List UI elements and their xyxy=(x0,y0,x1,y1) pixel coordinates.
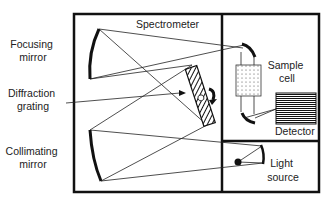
sample-mirror-top xyxy=(242,44,255,57)
source-mirror xyxy=(261,145,264,164)
sample-cell-label: Sample cell xyxy=(268,59,307,84)
light-source-lamp xyxy=(235,159,242,166)
light-rays xyxy=(90,29,276,181)
sample-cell xyxy=(236,65,261,96)
detector-label: Detector xyxy=(275,125,315,137)
collimating-mirror xyxy=(90,130,101,181)
diffraction-grating-label: Diffraction grating xyxy=(8,87,58,112)
spectrometer-diagram: Spectrometer Focusing mirror Diffraction… xyxy=(0,0,335,204)
detector xyxy=(276,93,316,124)
title-label: Spectrometer xyxy=(136,18,200,30)
light-source-label: Light source xyxy=(267,157,299,183)
arrow-head-icon xyxy=(179,90,186,96)
collimating-mirror-label: Collimating mirror xyxy=(6,145,61,170)
focusing-mirror xyxy=(90,29,99,79)
rotation-arrow-icon xyxy=(209,89,214,100)
grating-pointer xyxy=(66,93,180,103)
focusing-mirror-label: Focusing mirror xyxy=(10,38,56,63)
sample-mirror-bottom xyxy=(242,113,255,123)
diffraction-grating xyxy=(185,66,215,127)
